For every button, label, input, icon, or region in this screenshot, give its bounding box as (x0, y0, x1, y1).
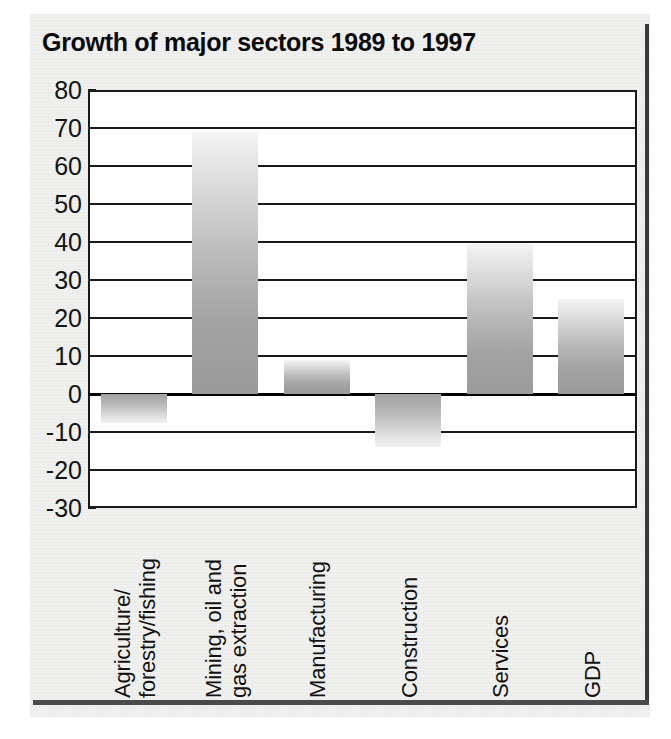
x-label-3: Construction (398, 512, 423, 702)
x-label-text-3: Construction (398, 577, 423, 698)
gridline--10 (88, 431, 637, 433)
y-tick-label-10: 10 (28, 344, 82, 369)
bar-4 (467, 244, 533, 394)
y-tick-label--30: -30 (28, 496, 82, 521)
x-label-1: Mining, oil andgas extraction (202, 512, 252, 702)
y-tick-label-40: 40 (28, 230, 82, 255)
gridline-70 (88, 127, 637, 129)
y-tick-label--10: -10 (28, 420, 82, 445)
gridline--20 (88, 469, 637, 471)
gridline-20 (88, 317, 637, 319)
page-background: Growth of major sectors 1989 to 1997 807… (0, 0, 671, 739)
gridline-0 (88, 393, 637, 396)
gridline-10 (88, 355, 637, 357)
x-label-text-1: Mining, oil andgas extraction (202, 559, 251, 698)
plot-frame (88, 90, 637, 508)
bar-3 (375, 394, 441, 447)
x-label-line: gas extraction (227, 559, 252, 698)
x-label-line: Construction (398, 577, 423, 698)
x-label-line: Mining, oil and (202, 559, 227, 698)
x-label-0: Agriculture/forestry/fishing (111, 512, 161, 702)
right-margin-rule (645, 24, 649, 704)
gridline-30 (88, 279, 637, 281)
y-tick-label-60: 60 (28, 154, 82, 179)
x-label-line: GDP (581, 651, 606, 698)
x-label-line: forestry/fishing (135, 558, 160, 698)
x-label-line: Agriculture/ (111, 558, 136, 698)
x-label-text-5: GDP (581, 651, 606, 698)
y-tick-label-0: 0 (28, 382, 82, 407)
x-label-2: Manufacturing (306, 512, 331, 702)
y-axis-labels: 80706050403020100-10-20-30 (22, 90, 82, 508)
y-tick-label-30: 30 (28, 268, 82, 293)
x-label-4: Services (489, 512, 514, 702)
y-tick-label-80: 80 (28, 78, 82, 103)
y-tick-label--20: -20 (28, 458, 82, 483)
bar-1 (192, 132, 258, 394)
x-label-text-2: Manufacturing (306, 561, 331, 698)
x-label-5: GDP (581, 512, 606, 702)
y-tick-label-50: 50 (28, 192, 82, 217)
chart-plot-area (88, 90, 637, 508)
x-label-line: Manufacturing (306, 561, 331, 698)
x-label-text-0: Agriculture/forestry/fishing (111, 558, 160, 698)
x-label-text-4: Services (489, 615, 514, 698)
y-tick-label-20: 20 (28, 306, 82, 331)
x-label-line: Services (489, 615, 514, 698)
x-axis-category-labels: Agriculture/forestry/fishingMining, oil … (88, 512, 637, 702)
chart-title: Growth of major sectors 1989 to 1997 (42, 28, 476, 57)
bar-0 (101, 394, 167, 423)
gridline-50 (88, 203, 637, 205)
bar-5 (558, 299, 624, 394)
gridline-40 (88, 241, 637, 243)
y-tick-label-70: 70 (28, 116, 82, 141)
bar-2 (284, 360, 350, 394)
gridline-60 (88, 165, 637, 167)
